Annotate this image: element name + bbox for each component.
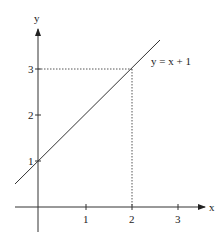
x-axis-label: x: [209, 201, 215, 213]
equation-label: y = x + 1: [151, 55, 191, 67]
line-chart: x y 1 2 3 1 2 3 y = x + 1: [0, 0, 224, 243]
x-tick-label-1: 1: [83, 213, 89, 225]
x-tick-label-2: 2: [129, 213, 135, 225]
y-tick-label-3: 3: [28, 63, 34, 75]
y-tick-label-2: 2: [28, 109, 34, 121]
y-axis-label: y: [34, 12, 40, 24]
x-tick-label-3: 3: [175, 213, 181, 225]
y-tick-label-1: 1: [28, 155, 34, 167]
series-line: [15, 40, 160, 184]
